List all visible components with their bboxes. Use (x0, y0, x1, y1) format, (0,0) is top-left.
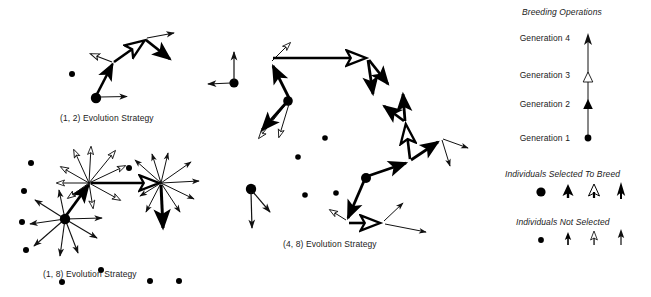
generation-breeding-arrow (403, 94, 405, 121)
thin-arrow-small-icon (618, 229, 624, 245)
generation-4-breeding-arrow (146, 40, 170, 59)
unselected-offspring-arrow (251, 192, 252, 228)
generation-4-label: Generation 4 (495, 33, 570, 43)
selected-to-breed-title: Individuals Selected To Breed (505, 169, 620, 179)
generation-breeding-arrow (384, 106, 404, 121)
unselected-individual-dot (69, 71, 75, 77)
generation-breeding-arrow (273, 66, 289, 98)
unselected-offspring-arrow (385, 224, 426, 232)
hollow-arrow-small-icon (591, 231, 598, 245)
filled-arrow-small-icon (565, 232, 571, 245)
unselected-dot-field (295, 135, 339, 198)
filled-circle-large-icon (536, 187, 545, 196)
filled-circle-small-icon (538, 237, 544, 243)
not-selected-title: Individuals Not Selected (516, 217, 610, 227)
panel-4-8-caption: (4, 8) Evolution Strategy (283, 239, 377, 249)
generation-4-breeding-arrow (161, 185, 163, 228)
unselected-offspring-arrow (253, 192, 270, 212)
breeding-operations-axis (583, 33, 593, 141)
breeding-operations-title: Breeding Operations (522, 7, 602, 17)
generation-1-marker-icon (585, 135, 592, 142)
generation-breeding-arrow (368, 163, 406, 176)
not-selected-symbols (538, 229, 624, 245)
generation-2-breeding-arrow (96, 64, 113, 96)
hollow-arrow-bold-icon (589, 184, 600, 198)
panel-1-8-graphic (19, 147, 199, 285)
generation-2-label: Generation 2 (495, 99, 570, 109)
filled-arrow-thin-bold-icon (617, 182, 625, 199)
filled-arrow-bold-icon (563, 184, 574, 198)
generation-3-breeding-arrow (114, 42, 143, 63)
generation-2-breeding-arrow (65, 185, 89, 217)
unselected-offspring-arrow (384, 203, 403, 221)
unselected-offspring-arrow (100, 97, 127, 98)
generation-breeding-arrow (406, 126, 410, 159)
generation-2-marker-icon (583, 99, 593, 109)
generation-breeding-arrow (411, 142, 438, 160)
unselected-offspring-hollow-arrow (91, 54, 112, 62)
generation-1-label: Generation 1 (495, 133, 570, 143)
unselected-offspring-hollow-arrow (330, 210, 346, 220)
unselected-offspring-arrow-2 (147, 33, 174, 38)
unselected-offspring-arrow (443, 139, 468, 148)
generation-3-label: Generation 3 (495, 70, 570, 80)
panel-4-8-graphic (208, 43, 468, 232)
unselected-offspring-arrow (208, 83, 231, 84)
panel-1-2-caption: (1, 2) Evolution Strategy (60, 113, 154, 123)
panel-1-2-graphic (69, 33, 174, 103)
generation-2-offspring-fan (57, 147, 125, 208)
generation-breeding-arrow (348, 181, 364, 218)
panel-1-8-caption: (1, 8) Evolution Strategy (43, 269, 137, 279)
figure-canvas (0, 0, 651, 297)
generation-3-marker-icon (583, 72, 593, 82)
evolution-strategy-figure: (1, 2) Evolution Strategy (1, 8) Evoluti… (0, 0, 651, 297)
unselected-offspring-arrow (442, 140, 450, 166)
selected-to-breed-symbols (536, 182, 625, 199)
